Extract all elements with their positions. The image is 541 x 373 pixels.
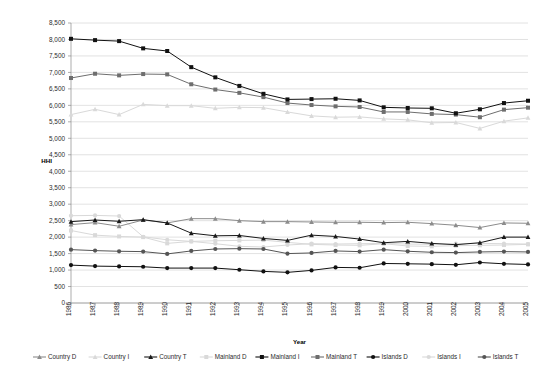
- data-point: [526, 242, 530, 246]
- data-point: [285, 270, 289, 274]
- data-point: [285, 243, 289, 247]
- legend-item-mainland-d[interactable]: Mainland D: [200, 353, 247, 360]
- legend-item-country-i[interactable]: Country I: [89, 353, 130, 361]
- data-point: [141, 265, 145, 269]
- data-point: [165, 49, 169, 53]
- data-point: [213, 247, 217, 251]
- data-point: [165, 266, 169, 270]
- y-tick-label: 8,500: [49, 19, 65, 26]
- legend-label: Mainland D: [215, 353, 247, 360]
- data-point: [189, 249, 193, 253]
- data-point: [478, 107, 482, 111]
- x-tick-label: 1995: [281, 301, 288, 316]
- series-islands-t: [69, 247, 530, 256]
- legend-item-country-t[interactable]: Country T: [144, 353, 187, 361]
- data-point: [358, 105, 362, 109]
- data-point: [406, 110, 410, 114]
- data-point: [502, 250, 506, 254]
- data-point: [454, 263, 458, 267]
- data-point: [69, 37, 73, 41]
- data-point: [141, 250, 145, 254]
- data-point: [237, 268, 241, 272]
- data-point: [165, 72, 169, 76]
- data-point: [165, 241, 169, 245]
- data-point: [334, 97, 338, 101]
- data-point: [93, 38, 97, 42]
- data-point: [526, 250, 530, 254]
- data-point: [430, 106, 434, 110]
- y-tick-label: 500: [54, 283, 65, 290]
- series-islands-d: [69, 260, 530, 274]
- data-point: [430, 250, 434, 254]
- data-point: [117, 39, 121, 43]
- x-tick-label: 1997: [330, 301, 337, 316]
- legend-item-mainland-t[interactable]: Mainland T: [311, 353, 357, 360]
- data-point: [213, 242, 217, 246]
- y-tick-label: 1,000: [49, 266, 65, 273]
- legend-marker: [316, 355, 320, 359]
- data-point: [478, 115, 482, 119]
- data-point: [309, 268, 313, 272]
- data-point: [502, 242, 506, 246]
- data-point: [93, 213, 97, 217]
- series-line: [71, 220, 528, 245]
- legend-label: Islands T: [493, 353, 519, 360]
- chart-container: 05001,0001,5002,0002,5003,0003,5004,0004…: [0, 0, 541, 373]
- y-axis-ticks: 05001,0001,5002,0002,5003,0003,5004,0004…: [49, 19, 71, 306]
- legend-item-country-d[interactable]: Country D: [33, 353, 77, 361]
- x-tick-label: 1992: [209, 301, 216, 316]
- y-tick-label: 3,500: [49, 184, 65, 191]
- data-point: [237, 247, 241, 251]
- data-point: [526, 262, 530, 266]
- x-tick-label: 1996: [306, 301, 313, 316]
- x-tick-label: 2004: [498, 301, 505, 316]
- y-tick-label: 1,500: [49, 250, 65, 257]
- data-point: [237, 91, 241, 95]
- x-tick-label: 2002: [450, 301, 457, 316]
- data-point: [261, 92, 265, 96]
- data-point: [117, 264, 121, 268]
- data-point: [93, 233, 97, 237]
- data-point: [69, 248, 73, 252]
- chart-page: 05001,0001,5002,0002,5003,0003,5004,0004…: [0, 0, 541, 373]
- data-point: [406, 249, 410, 253]
- legend-label: Mainland T: [326, 353, 357, 360]
- series-line: [71, 39, 528, 113]
- legend-label: Country T: [159, 353, 187, 361]
- data-point: [454, 111, 458, 115]
- legend-item-islands-t[interactable]: Islands T: [478, 353, 519, 360]
- data-point: [358, 266, 362, 270]
- x-tick-label: 1994: [257, 301, 264, 316]
- data-point: [141, 235, 145, 239]
- data-point: [117, 214, 121, 218]
- data-point: [69, 263, 73, 267]
- x-tick-label: 1991: [185, 301, 192, 316]
- x-tick-label: 1999: [378, 301, 385, 316]
- data-point: [261, 269, 265, 273]
- x-tick-label: 1987: [89, 301, 96, 316]
- series-line: [71, 74, 528, 117]
- x-axis-ticks: 1986198719881989199019911992199319941995…: [65, 301, 529, 316]
- y-tick-label: 6,500: [49, 85, 65, 92]
- legend-item-islands-i[interactable]: Islands I: [422, 353, 461, 360]
- data-point: [285, 251, 289, 255]
- x-tick-label: 2000: [402, 301, 409, 316]
- legend-item-mainland-i[interactable]: Mainland I: [255, 353, 299, 360]
- data-point: [454, 251, 458, 255]
- y-tick-label: 7,000: [49, 69, 65, 76]
- x-tick-label: 2005: [522, 301, 529, 316]
- y-tick-label: 3,000: [49, 200, 65, 207]
- y-tick-label: 2,000: [49, 233, 65, 240]
- y-gridlines: [71, 23, 528, 303]
- y-tick-label: 5,000: [49, 135, 65, 142]
- x-axis-title: Year: [293, 338, 307, 345]
- x-tick-label: 2003: [474, 301, 481, 316]
- legend-item-islands-d[interactable]: Islands D: [367, 353, 409, 360]
- data-point: [382, 105, 386, 109]
- legend-label: Islands I: [437, 353, 461, 360]
- data-point: [69, 214, 73, 218]
- legend-label: Mainland I: [270, 353, 299, 360]
- data-point: [310, 97, 314, 101]
- data-point: [93, 107, 98, 112]
- series-mainland-i: [69, 37, 530, 115]
